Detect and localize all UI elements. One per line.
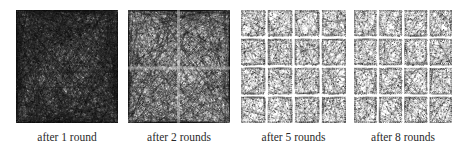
panel-after-8-rounds — [354, 10, 452, 123]
panel-after-2-rounds — [128, 10, 230, 123]
matrix-plot-2 — [128, 10, 230, 123]
matrix-plot-1 — [16, 10, 118, 123]
caption-after-2-rounds: after 2 rounds — [128, 131, 230, 143]
panel-after-1-round — [16, 10, 118, 123]
caption-after-1-round: after 1 round — [16, 131, 118, 143]
matrix-plot-4 — [354, 10, 452, 123]
matrix-plot-3 — [241, 10, 346, 123]
caption-after-8-rounds: after 8 rounds — [354, 131, 452, 143]
panel-after-5-rounds — [241, 10, 346, 123]
caption-after-5-rounds: after 5 rounds — [241, 131, 346, 143]
